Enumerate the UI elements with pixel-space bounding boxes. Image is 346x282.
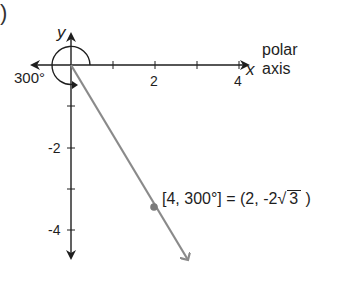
polar-axis-label-line2: axis bbox=[262, 61, 290, 77]
y-tick-label-neg2: -2 bbox=[48, 141, 60, 155]
sqrt-radical-icon: √ bbox=[277, 190, 286, 207]
x-tick-label-2: 2 bbox=[150, 74, 158, 88]
x-axis-label: x bbox=[246, 61, 255, 78]
point-marker bbox=[150, 203, 158, 211]
rect-coordinates-prefix: (2, -2 bbox=[240, 190, 277, 207]
y-axis-label: y bbox=[57, 24, 66, 41]
equals-sign: = bbox=[226, 190, 235, 207]
x-tick-label-4: 4 bbox=[234, 74, 242, 88]
polar-axis-label-line1: polar bbox=[262, 42, 298, 58]
rect-coordinates-suffix: ) bbox=[306, 190, 311, 207]
polar-coordinate-diagram: ) y x polar axis 2 4 -2 -4 300° [4, 300°… bbox=[0, 0, 346, 282]
polar-coordinates: [4, 300°] bbox=[162, 190, 222, 207]
terminal-ray bbox=[71, 65, 188, 260]
point-annotation: [4, 300°] = (2, -2√3 ) bbox=[162, 190, 311, 207]
x-axis bbox=[32, 61, 248, 69]
y-tick-label-neg4: -4 bbox=[48, 223, 60, 237]
arc-arrowhead-icon bbox=[72, 81, 78, 89]
figure-label-paren: ) bbox=[0, 2, 7, 24]
angle-label: 300° bbox=[14, 70, 45, 85]
sqrt-argument: 3 bbox=[287, 190, 301, 207]
